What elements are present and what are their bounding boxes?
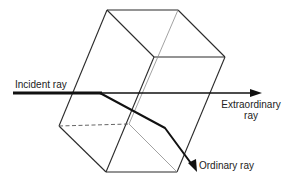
calcite-crystal-diagram	[0, 0, 288, 183]
edge-hidden-back-vertical	[129, 10, 178, 124]
edge-left-vertical	[59, 10, 107, 126]
edge-top-left-diagonal	[107, 10, 154, 57]
edge-top-right-diagonal	[178, 10, 225, 57]
edge-hidden-bottom-diagonal	[129, 124, 177, 172]
extraordinary-arrowhead-icon	[250, 89, 262, 97]
ordinary-ray	[100, 93, 193, 166]
extraordinary-ray-label: Extraordinary ray	[218, 99, 284, 121]
extraordinary-ray-label-line2: ray	[218, 110, 284, 121]
ordinary-ray-label: Ordinary ray	[199, 160, 254, 171]
crystal-hidden-edges	[59, 10, 178, 172]
edge-bottom-left-diagonal	[59, 126, 106, 172]
incident-ray-label: Incident ray	[15, 79, 67, 90]
extraordinary-ray-label-line1: Extraordinary	[218, 99, 284, 110]
edge-front-left-vertical	[106, 57, 154, 172]
edge-hidden-bottom-back	[59, 124, 129, 126]
crystal-visible-edges	[59, 10, 225, 172]
